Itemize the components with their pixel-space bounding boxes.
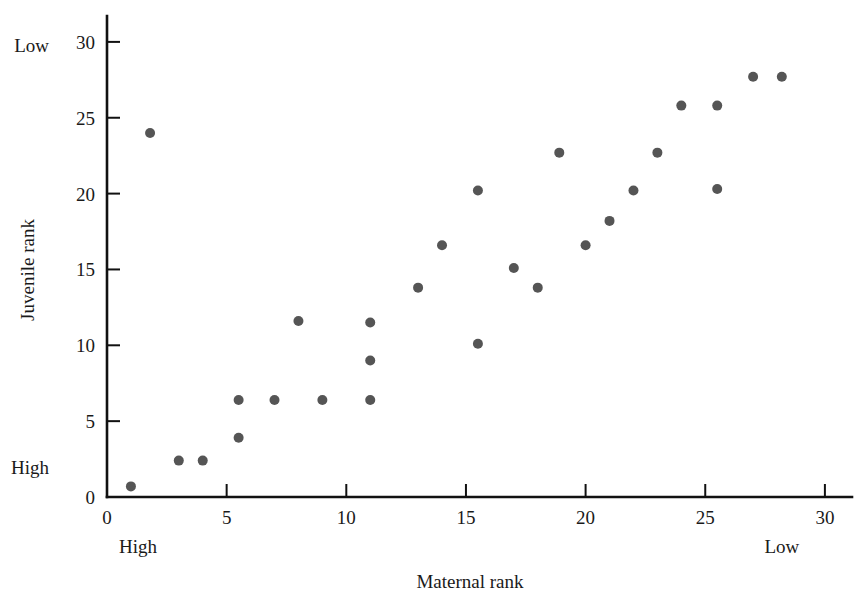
data-point bbox=[270, 395, 280, 405]
data-point bbox=[628, 186, 638, 196]
y-tick-label: 0 bbox=[86, 487, 96, 508]
data-point bbox=[234, 433, 244, 443]
data-point bbox=[533, 283, 543, 293]
y-tick-label: 25 bbox=[76, 108, 95, 129]
data-point bbox=[437, 240, 447, 250]
data-point bbox=[413, 283, 423, 293]
data-point bbox=[234, 395, 244, 405]
x-tick-label: 25 bbox=[696, 507, 715, 528]
plot-canvas: 051015202530 051015202530 HighLowHighLow… bbox=[0, 0, 862, 607]
axis-end-labels: HighLowHighLow bbox=[11, 35, 800, 557]
data-point bbox=[293, 316, 303, 326]
axis-end-label: High bbox=[119, 536, 158, 557]
data-point bbox=[554, 148, 564, 158]
data-point bbox=[712, 101, 722, 111]
axis-end-label: High bbox=[11, 457, 50, 478]
axis-end-label: Low bbox=[764, 536, 799, 557]
data-point bbox=[365, 355, 375, 365]
data-points bbox=[126, 72, 787, 492]
data-point bbox=[473, 186, 483, 196]
y-tick-label: 30 bbox=[76, 32, 95, 53]
x-tick-label: 20 bbox=[576, 507, 595, 528]
data-point bbox=[748, 72, 758, 82]
y-tick-label: 10 bbox=[76, 335, 95, 356]
data-point bbox=[145, 128, 155, 138]
y-tick-label: 20 bbox=[76, 184, 95, 205]
data-point bbox=[473, 339, 483, 349]
y-axis-title: Juvenile rank bbox=[17, 219, 38, 321]
data-point bbox=[652, 148, 662, 158]
x-tick-label: 30 bbox=[815, 507, 834, 528]
x-axis-ticks: 051015202530 bbox=[102, 484, 834, 528]
data-point bbox=[777, 72, 787, 82]
x-tick-label: 0 bbox=[102, 507, 112, 528]
data-point bbox=[126, 481, 136, 491]
x-tick-label: 10 bbox=[337, 507, 356, 528]
data-point bbox=[509, 263, 519, 273]
data-point bbox=[581, 240, 591, 250]
data-point bbox=[198, 456, 208, 466]
x-axis-title: Maternal rank bbox=[416, 571, 524, 592]
scatter-plot-figure: 051015202530 051015202530 HighLowHighLow… bbox=[0, 0, 862, 607]
y-axis-ticks: 051015202530 bbox=[76, 32, 120, 508]
y-tick-label: 5 bbox=[86, 411, 96, 432]
data-point bbox=[365, 318, 375, 328]
data-point bbox=[676, 101, 686, 111]
x-tick-label: 15 bbox=[456, 507, 475, 528]
data-point bbox=[605, 216, 615, 226]
axis-end-label: Low bbox=[14, 35, 49, 56]
data-point bbox=[174, 456, 184, 466]
y-tick-label: 15 bbox=[76, 259, 95, 280]
x-tick-label: 5 bbox=[222, 507, 232, 528]
data-point bbox=[712, 184, 722, 194]
data-point bbox=[365, 395, 375, 405]
data-point bbox=[317, 395, 327, 405]
